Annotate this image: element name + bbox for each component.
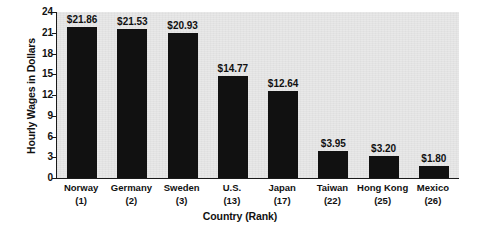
y-axis-tick-mark: [52, 54, 57, 55]
bar: [218, 76, 248, 178]
bar-value-label: $20.93: [151, 20, 215, 32]
bar: [117, 29, 147, 178]
bar-chart-figure: Hourly Wages in Dollars 03691215182124$2…: [0, 0, 480, 235]
bar-value-label: $12.64: [251, 78, 315, 90]
y-axis-tick-mark: [52, 157, 57, 158]
country-rank: (26): [394, 195, 472, 208]
y-axis-tick-mark: [52, 74, 57, 75]
y-axis-tick-mark: [52, 137, 57, 138]
bar: [67, 27, 97, 178]
y-axis-tick-label: 12: [23, 89, 53, 101]
bar: [168, 33, 198, 178]
y-axis-tick-label: 15: [23, 68, 53, 80]
y-axis-tick-mark: [52, 116, 57, 117]
bar: [318, 151, 348, 178]
y-axis-tick-mark: [52, 33, 57, 34]
bar-value-label: $14.77: [201, 63, 265, 75]
y-axis-tick-mark: [52, 95, 57, 96]
y-axis-tick-label: 21: [23, 27, 53, 39]
y-axis-tick-label: 6: [23, 131, 53, 143]
country-name: Japan: [268, 182, 295, 193]
plot-area: 03691215182124$21.86$21.53$20.93$14.77$1…: [56, 12, 459, 179]
bar-value-label: $1.80: [402, 153, 466, 165]
x-axis-title: Country (Rank): [0, 210, 480, 222]
bar: [369, 156, 399, 178]
y-axis-tick-label: 9: [23, 110, 53, 122]
country-name: Mexico: [417, 182, 449, 193]
x-axis-tick-label: Mexico(26): [394, 182, 472, 207]
country-name: U.S.: [223, 182, 241, 193]
bar: [419, 166, 449, 178]
bar: [268, 91, 298, 178]
y-axis-tick-label: 18: [23, 48, 53, 60]
y-axis-tick-mark: [52, 178, 57, 179]
y-axis-tick-label: 24: [23, 6, 53, 18]
y-axis-tick-label: 3: [23, 151, 53, 163]
